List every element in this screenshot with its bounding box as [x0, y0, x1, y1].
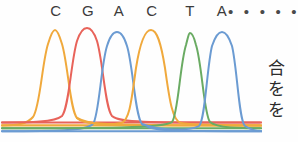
annotation-line-2: を — [268, 79, 298, 100]
trace-curves — [0, 18, 262, 142]
peak-curve-c-2 — [77, 30, 262, 125]
peak-group — [2, 28, 262, 131]
japanese-annotation-text: 合 を を — [268, 58, 298, 142]
annotation-line-1: 合 — [268, 58, 298, 79]
chromatogram-panel: C G A C T A • • • • • — [0, 0, 262, 142]
annotation-line-3: を — [268, 100, 298, 121]
chromatogram-screenshot: C G A C T A • • • • • — [0, 0, 298, 142]
